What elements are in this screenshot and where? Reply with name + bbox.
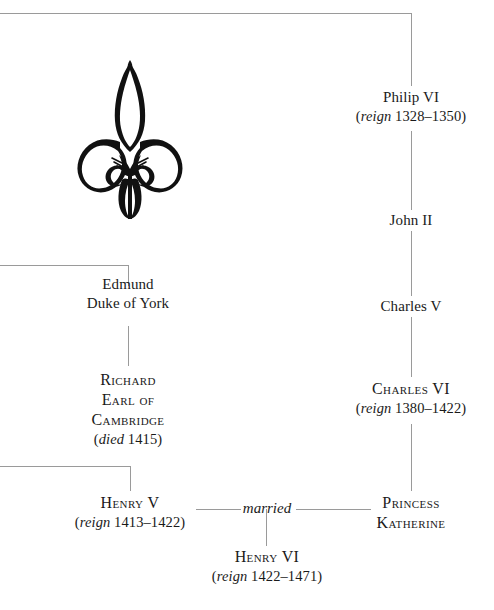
node-henry-vi: Henry VI (reign 1422–1471)	[187, 547, 347, 585]
connector-edmund-to-richard	[128, 326, 129, 366]
connector-charles-vi-to-katherine	[411, 424, 412, 491]
node-princess-katherine-line1: Princess	[331, 493, 491, 513]
node-richard-line1: Richard	[48, 370, 208, 390]
node-charles-v-name: Charles V	[331, 297, 491, 316]
node-charles-vi-name: Charles VI	[331, 379, 491, 399]
fleur-de-lis-icon	[72, 58, 188, 222]
node-edmund-duke-of-york: Edmund Duke of York	[48, 275, 208, 313]
node-princess-katherine: Princess Katherine	[331, 493, 491, 533]
node-charles-vi-detail: (reign 1380–1422)	[331, 399, 491, 417]
node-henry-vi-detail: (reign 1422–1471)	[187, 567, 347, 585]
node-princess-katherine-line2: Katherine	[331, 513, 491, 533]
connector-french-spine-philip	[411, 13, 412, 86]
node-philip-vi-detail: (reign 1328–1350)	[331, 107, 491, 125]
node-richard-line3: Cambridge	[48, 410, 208, 430]
node-edmund-line1: Edmund	[48, 275, 208, 294]
connector-york-branch-horizontal	[0, 265, 129, 266]
family-tree-figure: Philip VI (reign 1328–1350) John II Char…	[0, 0, 494, 610]
marriage-label: married	[217, 500, 317, 517]
node-henry-v: Henry V (reign 1413–1422)	[50, 493, 210, 531]
node-henry-v-detail: (reign 1413–1422)	[50, 513, 210, 531]
node-edmund-line2: Duke of York	[48, 294, 208, 313]
node-john-ii-name: John II	[331, 211, 491, 230]
node-henry-v-name: Henry V	[50, 493, 210, 513]
node-richard-earl-of-cambridge: Richard Earl of Cambridge (died 1415)	[48, 370, 208, 449]
connector-top-horizontal	[0, 13, 412, 14]
connector-lancaster-branch-horizontal	[0, 466, 131, 467]
connector-lancaster-branch-drop	[130, 466, 131, 491]
node-philip-vi: Philip VI (reign 1328–1350)	[331, 88, 491, 125]
node-richard-line2: Earl of	[48, 390, 208, 410]
connector-charles-v-to-charles-vi	[411, 317, 412, 377]
node-richard-detail: (died 1415)	[48, 430, 208, 448]
node-john-ii: John II	[331, 211, 491, 230]
connector-philip-to-john	[411, 131, 412, 210]
node-philip-vi-name: Philip VI	[331, 88, 491, 107]
node-charles-v: Charles V	[331, 297, 491, 316]
connector-john-to-charles-v	[411, 231, 412, 296]
node-charles-vi: Charles VI (reign 1380–1422)	[331, 379, 491, 417]
node-henry-vi-name: Henry VI	[187, 547, 347, 567]
